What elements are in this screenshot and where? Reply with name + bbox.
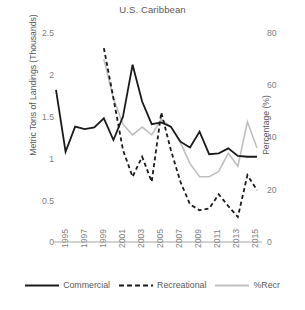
legend-item-commercial: Commercial (25, 281, 110, 290)
legend-key-dashed-dark (119, 281, 153, 290)
legend-label-commercial: Commercial (63, 281, 110, 290)
legend-item-pct-recr: %Recr (215, 281, 279, 290)
legend-key-solid-gray (215, 281, 249, 290)
plot-area (0, 0, 305, 310)
legend-item-recreational: Recreational (119, 281, 206, 290)
legend-label-recreational: Recreational (157, 281, 206, 290)
series-line-recreational (104, 48, 257, 217)
legend-label-pct-recr: %Recr (253, 281, 279, 290)
chart-figure: U.S. Caribbean Metric Tons of Landings (… (0, 0, 305, 310)
chart-legend: Commercial Recreational %Recr (0, 281, 305, 290)
legend-key-solid-dark (25, 281, 59, 290)
